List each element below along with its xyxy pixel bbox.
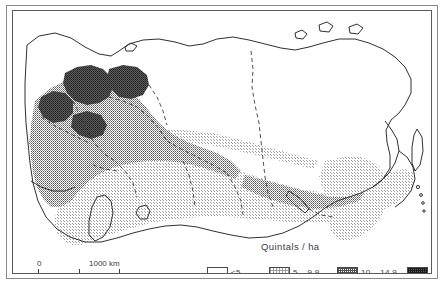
legend-swatch-5-9.9 (269, 267, 290, 274)
map-neatline-frame: Quintals / ha <5 5 – 9.9 10 – 14.9 ≥ 15 … (12, 10, 432, 274)
legend-title: Quintals / ha (261, 241, 320, 252)
scale-tick-mid (79, 269, 80, 274)
map-class-areas (29, 65, 415, 245)
legend-swatch-10-14.9 (337, 267, 358, 274)
legend-item-lt5[interactable]: <5 (207, 266, 241, 274)
legend-label-5-9.9: 5 – 9.9 (293, 268, 320, 274)
map-scale-bar: 0 1000 km (37, 259, 137, 274)
scale-tick-end (119, 269, 120, 274)
legend-swatch-gte15 (407, 267, 428, 274)
legend-item-gte15[interactable]: ≥ 15 (407, 266, 432, 274)
legend-swatch-lt5 (207, 267, 228, 274)
scale-distance-label: 1000 km (89, 259, 120, 268)
legend-label-gte15: ≥ 15 (431, 268, 432, 274)
legend-label-10-14.9: 10 – 14.9 (361, 268, 397, 274)
map-page: Quintals / ha <5 5 – 9.9 10 – 14.9 ≥ 15 … (0, 0, 446, 289)
map-legend: Quintals / ha <5 5 – 9.9 10 – 14.9 ≥ 15 (203, 241, 432, 274)
scale-zero-label: 0 (37, 259, 41, 268)
choropleth-map (13, 11, 431, 273)
scale-tick-start (38, 269, 39, 274)
legend-item-5-9.9[interactable]: 5 – 9.9 (269, 266, 320, 274)
legend-label-lt5: <5 (231, 268, 241, 274)
scale-bar-track (38, 273, 120, 274)
legend-item-10-14.9[interactable]: 10 – 14.9 (337, 266, 397, 274)
